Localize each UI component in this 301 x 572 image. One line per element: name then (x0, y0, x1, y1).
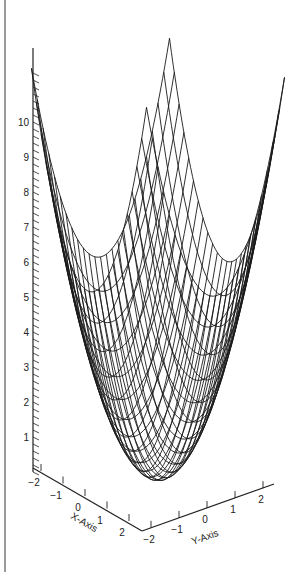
z-axis-tick (33, 192, 39, 195)
y-tick-label: 0 (202, 514, 208, 525)
z-axis-tick (33, 227, 39, 230)
z-axis-tick (33, 199, 39, 202)
z-tick-label: 7 (23, 222, 29, 233)
z-tick-label: 6 (23, 257, 29, 268)
z-axis-tick (33, 353, 39, 356)
z-axis-tick (33, 122, 39, 125)
surface-plot: 12345678910 −2−1012 −2−1012 X-Axis Y-Axi… (0, 0, 301, 572)
z-tick-label: 1 (23, 432, 29, 443)
z-axis-tick (33, 395, 39, 398)
y-axis-line (142, 484, 274, 531)
z-axis-tick (33, 437, 39, 440)
z-axis-tick (33, 206, 39, 209)
z-axis-tick (33, 234, 39, 237)
z-tick-label: 9 (23, 152, 29, 163)
z-axis-tick (33, 416, 39, 419)
z-axis-tick (33, 283, 39, 286)
z-tick-label: 2 (23, 397, 29, 408)
z-axis-tick (33, 290, 39, 293)
y-tick-label: 1 (230, 504, 236, 515)
y-tick-label: −1 (171, 524, 183, 535)
wireframe-mesh (32, 38, 285, 480)
z-axis-tick (33, 409, 39, 412)
z-axis-tick (33, 458, 39, 461)
z-axis: 12345678910 (18, 48, 39, 475)
z-axis-tick (33, 276, 39, 279)
z-axis-tick (33, 367, 39, 370)
z-axis-tick (33, 318, 39, 321)
mesh-line-y (170, 38, 285, 261)
mesh-line-y (129, 215, 244, 438)
z-axis-tick (33, 472, 39, 475)
z-axis-tick (33, 178, 39, 181)
mesh-line-y (118, 240, 233, 464)
z-axis-tick (33, 346, 39, 349)
x-tick-label: −1 (50, 490, 62, 501)
z-axis-tick (33, 325, 39, 328)
z-tick-label: 4 (23, 327, 29, 338)
z-tick-label: 10 (18, 117, 30, 128)
z-axis-tick (33, 213, 39, 216)
z-axis-tick (33, 143, 39, 146)
z-axis-tick (33, 73, 39, 76)
z-axis-tick (33, 402, 39, 405)
z-axis-tick (33, 297, 39, 300)
z-axis-tick (33, 374, 39, 377)
mesh-line-y (147, 156, 262, 380)
z-axis-tick (33, 360, 39, 363)
z-axis-tick (33, 129, 39, 132)
z-axis-tick (33, 388, 39, 391)
z-axis-tick (33, 157, 39, 160)
z-axis-tick (33, 150, 39, 153)
y-tick-label: 2 (258, 494, 264, 505)
y-axis-title: Y-Axis (190, 527, 220, 547)
z-axis-tick (33, 339, 39, 342)
z-axis-tick (33, 451, 39, 454)
z-axis-tick (33, 423, 39, 426)
z-axis-tick (33, 136, 39, 139)
z-tick-label: 5 (23, 292, 29, 303)
z-axis-tick (33, 220, 39, 223)
z-axis-tick (33, 332, 39, 335)
z-axis-tick (33, 262, 39, 265)
z-axis-tick (33, 465, 39, 468)
z-tick-label: 3 (23, 362, 29, 373)
y-tick-label: −2 (143, 534, 155, 545)
z-axis-tick (33, 241, 39, 244)
z-axis-tick (33, 444, 39, 447)
z-axis-tick (33, 381, 39, 384)
z-axis-tick (33, 269, 39, 272)
z-axis-tick (33, 255, 39, 258)
z-axis-tick (33, 171, 39, 174)
x-tick-label: 2 (119, 527, 125, 538)
z-axis-tick (33, 185, 39, 188)
z-axis-tick (33, 430, 39, 433)
mesh-line-y (32, 68, 147, 291)
mesh-line-y (158, 103, 273, 327)
z-axis-tick (33, 164, 39, 167)
z-tick-label: 8 (23, 187, 29, 198)
z-axis-tick (33, 311, 39, 314)
x-axis-title: X-Axis (69, 510, 100, 534)
z-axis-tick (33, 304, 39, 307)
mesh-line-x (36, 72, 174, 291)
z-axis-tick (33, 248, 39, 251)
x-tick-label: −2 (28, 477, 40, 488)
